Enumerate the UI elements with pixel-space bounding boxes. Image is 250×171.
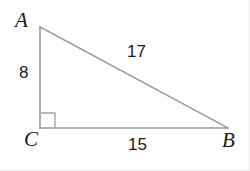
side-label-ac: 8 <box>19 64 28 81</box>
geometry-figure: A C B 8 17 15 <box>0 0 250 171</box>
side-label-cb: 15 <box>128 136 147 153</box>
side-label-ab: 17 <box>127 43 146 60</box>
right-angle-icon <box>41 113 55 128</box>
vertex-label-b: B <box>222 130 235 151</box>
vertex-label-a: A <box>15 10 28 31</box>
vertex-label-c: C <box>24 129 38 150</box>
